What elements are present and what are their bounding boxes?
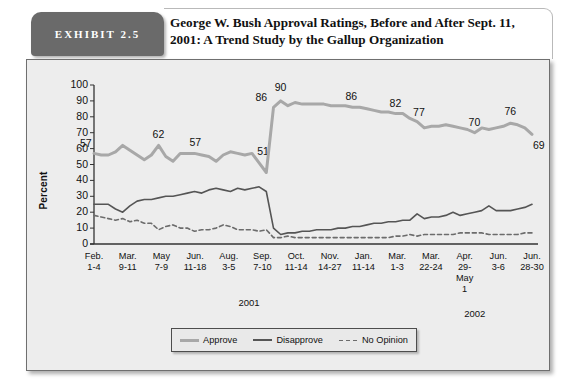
exhibit-tag-label: EXHIBIT 2.5 xyxy=(55,28,140,40)
plot-area xyxy=(27,60,549,370)
exhibit-page: EXHIBIT 2.5 George W. Bush Approval Rati… xyxy=(0,0,576,387)
legend-label-disapprove: Disapprove xyxy=(276,335,322,345)
legend-label-no-opinion: No Opinion xyxy=(362,335,408,345)
chart-legend: Approve Disapprove No Opinion xyxy=(171,328,417,352)
approve-line-icon xyxy=(180,339,199,342)
chart-container: Percent 1009080706050403020100 Feb.1-4Ma… xyxy=(26,59,550,371)
series-line-no-opinion xyxy=(94,215,532,237)
legend-item-approve[interactable]: Approve xyxy=(180,335,237,345)
legend-item-disapprove[interactable]: Disapprove xyxy=(253,335,322,345)
legend-item-no-opinion[interactable]: No Opinion xyxy=(339,335,408,345)
page-title: George W. Bush Approval Ratings, Before … xyxy=(170,14,530,48)
exhibit-tag: EXHIBIT 2.5 xyxy=(31,12,164,56)
no-opinion-line-icon xyxy=(339,340,358,341)
series-line-approve xyxy=(94,101,532,173)
series-line-disapprove xyxy=(94,187,532,235)
legend-label-approve: Approve xyxy=(203,335,237,345)
disapprove-line-icon xyxy=(253,339,272,341)
